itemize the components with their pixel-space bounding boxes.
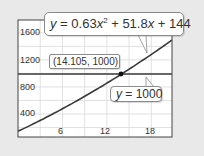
equation-callout: y = 0.63x2 + 51.8x + 144	[44, 12, 184, 36]
y-tick-400: 400	[20, 108, 35, 118]
intersection-callout: (14.105, 1000)	[49, 54, 120, 69]
horizontal-line-callout: y = 1000	[110, 86, 162, 102]
x-tick-6: 6	[58, 126, 63, 136]
eq-part-2: + 51.8	[108, 16, 148, 31]
x-tick-18: 18	[145, 126, 155, 136]
eq-part-1: = 0.63	[57, 16, 97, 31]
y-tick-1200: 1200	[20, 55, 40, 65]
eq-part-3: + 144	[154, 16, 191, 31]
intersection-point	[119, 72, 124, 77]
y-tick-800: 800	[20, 82, 35, 92]
y-tick-1600: 1600	[20, 27, 40, 37]
line-eq-rest: = 1000	[122, 87, 162, 101]
x-tick-12: 12	[100, 126, 110, 136]
